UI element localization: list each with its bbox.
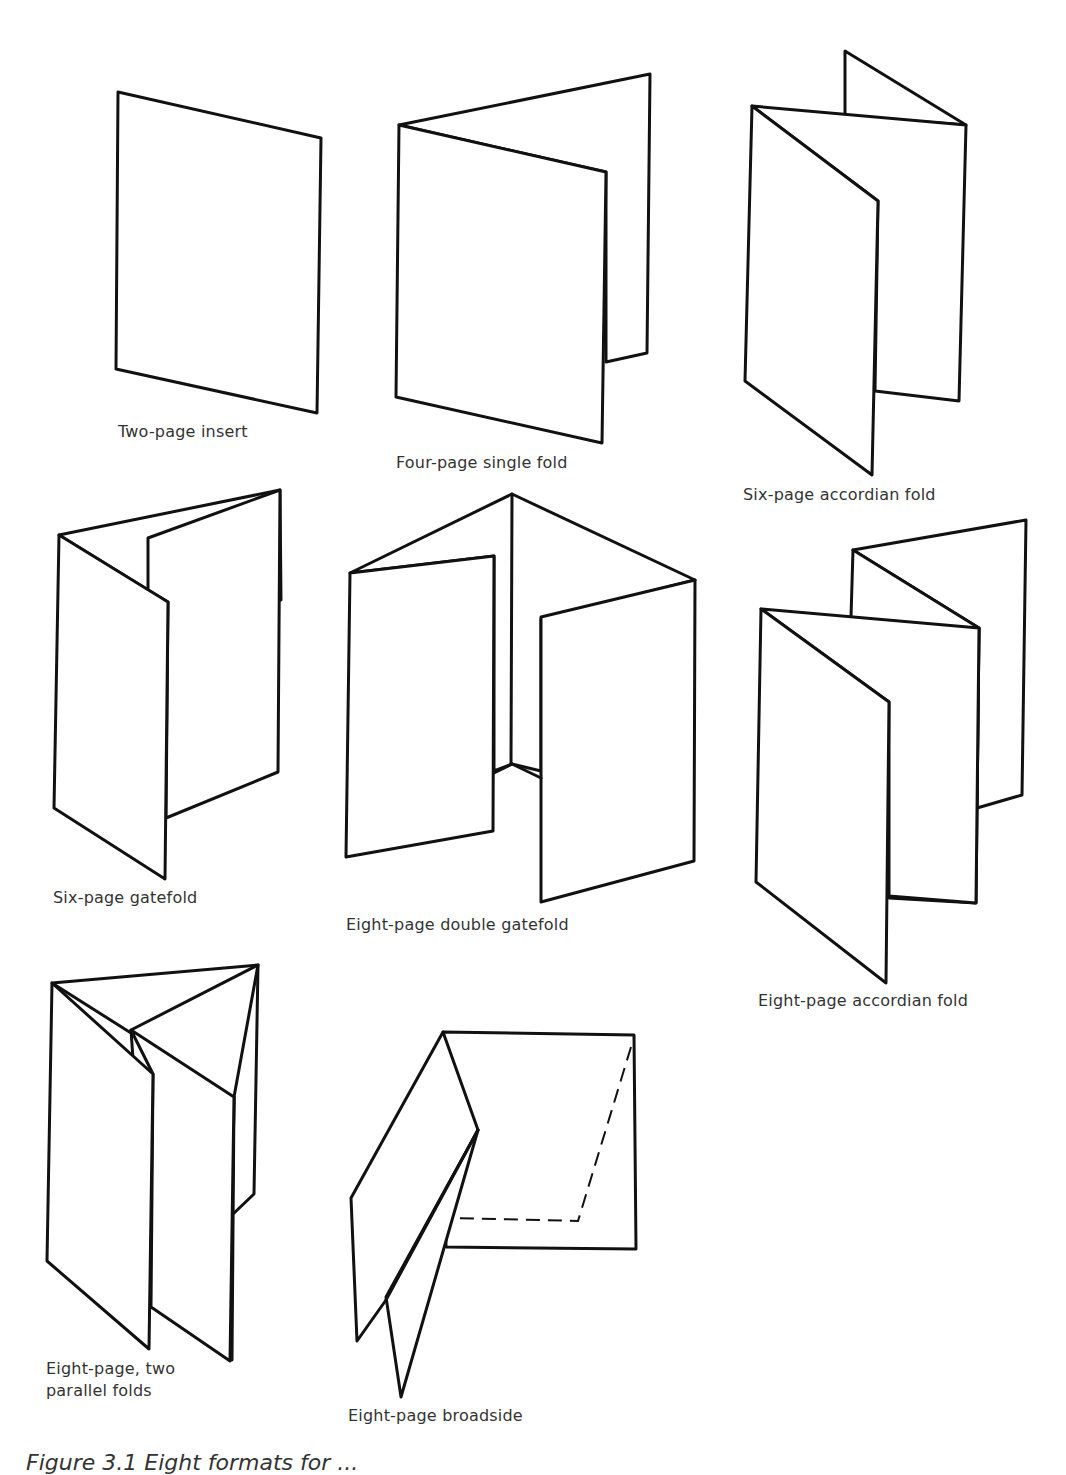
eight-page-double-gatefold-drawing bbox=[346, 494, 695, 902]
eight-page-accordian-fold-drawing bbox=[756, 520, 1026, 983]
six-page-gatefold-drawing bbox=[54, 490, 281, 879]
label-six-page-gatefold: Six-page gatefold bbox=[53, 887, 197, 909]
label-eight-page-broadside: Eight-page broadside bbox=[348, 1405, 523, 1427]
eight-page-two-parallel-folds-drawing bbox=[47, 965, 258, 1361]
label-two-page-insert: Two-page insert bbox=[118, 421, 248, 443]
eight-page-broadside-drawing bbox=[351, 1032, 636, 1397]
six-page-accordian-fold-drawing bbox=[745, 51, 966, 475]
label-eight-page-two-parallel-folds: Eight-page, two parallel folds bbox=[46, 1358, 175, 1402]
label-eight-page-double-gatefold: Eight-page double gatefold bbox=[346, 914, 569, 936]
four-page-single-fold-drawing bbox=[396, 74, 650, 443]
label-six-page-accordian-fold: Six-page accordian fold bbox=[743, 484, 936, 506]
two-page-insert-drawing bbox=[116, 92, 321, 413]
label-eight-page-accordian-fold: Eight-page accordian fold bbox=[758, 990, 968, 1012]
figure-caption: Figure 3.1 Eight formats for ... bbox=[26, 1450, 358, 1475]
label-four-page-single-fold: Four-page single fold bbox=[396, 452, 568, 474]
